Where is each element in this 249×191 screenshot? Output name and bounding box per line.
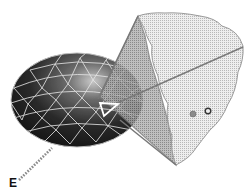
sample-point-gray [190, 111, 196, 117]
eye-point-label: E [9, 177, 17, 189]
dotted-view-ray [19, 148, 52, 180]
sample-point-ring [205, 108, 211, 114]
diagram-canvas [0, 0, 249, 191]
